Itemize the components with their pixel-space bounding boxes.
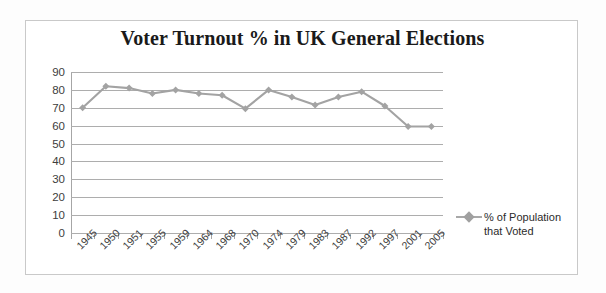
plot-area: 0102030405060708090 19451950195119551959… (71, 72, 443, 233)
series-line (83, 86, 432, 126)
chart-frame: Voter Turnout % in UK General Elections … (25, 20, 578, 275)
y-axis-tick-label: 60 (52, 120, 65, 132)
legend-label-line1: % of Population (484, 211, 561, 223)
data-series-line (71, 72, 443, 233)
data-point-marker (335, 94, 342, 101)
data-point-marker (428, 123, 435, 130)
data-point-marker (288, 94, 295, 101)
data-point-marker (195, 90, 202, 97)
y-axis-tick-label: 30 (52, 173, 65, 185)
chart-screenshot: Voter Turnout % in UK General Elections … (0, 0, 606, 293)
chart-title: Voter Turnout % in UK General Elections (26, 27, 579, 50)
legend-entry: % of Population (456, 209, 574, 224)
y-axis-tick-label: 50 (52, 138, 65, 150)
y-axis-tick-label: 10 (52, 209, 65, 221)
y-axis-tick-label: 40 (52, 155, 65, 167)
y-axis-tick-label: 80 (52, 84, 65, 96)
data-point-marker (149, 90, 156, 97)
chart-legend: % of Population that Voted (456, 209, 574, 238)
data-point-marker (126, 85, 133, 92)
y-axis-tick-label: 20 (52, 191, 65, 203)
y-axis-tick-label: 0 (59, 227, 65, 239)
legend-label-line2: that Voted (484, 224, 574, 238)
legend-marker-icon (456, 212, 482, 222)
y-axis-tick-label: 90 (52, 66, 65, 78)
data-point-marker (172, 86, 179, 93)
data-point-marker (312, 102, 319, 109)
x-axis-tick (71, 234, 72, 239)
y-axis-tick-label: 70 (52, 102, 65, 114)
